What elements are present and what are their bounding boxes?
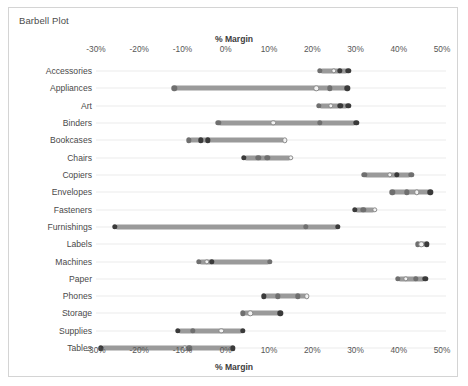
barbell-bar-phones[interactable]: [264, 294, 307, 299]
data-point-binders-3[interactable]: [354, 120, 359, 125]
axis-title-bottom: % Margin: [0, 362, 468, 372]
x-tick-label-bottom: 40%: [390, 345, 407, 355]
data-point-chairs-3[interactable]: [288, 155, 293, 160]
category-label-art: Art: [81, 101, 92, 111]
x-tick-label-top: 30%: [347, 44, 364, 54]
x-tick-label-bottom: 20%: [304, 345, 321, 355]
category-label-envelopes: Envelopes: [52, 187, 92, 197]
category-label-chairs: Chairs: [67, 153, 92, 163]
gridline-row: [96, 209, 446, 210]
barbell-bar-bookcases[interactable]: [189, 138, 285, 143]
data-point-copiers-3[interactable]: [409, 172, 414, 177]
barbell-bar-paper[interactable]: [398, 276, 425, 281]
data-point-fasteners-2[interactable]: [372, 207, 377, 212]
plot-area: % Margin -30%-20%-10%0%10%20%30%40%50% A…: [0, 0, 468, 386]
category-label-supplies: Supplies: [59, 326, 92, 336]
x-tick-label-top: 40%: [390, 44, 407, 54]
barbell-bar-tables[interactable]: [101, 346, 233, 351]
x-tick-label-top: 50%: [434, 44, 451, 54]
category-label-furnishings: Furnishings: [48, 222, 92, 232]
x-tick-label-bottom: 10%: [261, 345, 278, 355]
data-point-phones-3[interactable]: [304, 293, 309, 298]
category-label-labels: Labels: [67, 239, 92, 249]
x-tick-label-top: 10%: [261, 44, 278, 54]
category-label-phones: Phones: [63, 291, 92, 301]
category-label-fasteners: Fasteners: [54, 205, 92, 215]
data-point-bookcases-3[interactable]: [282, 138, 287, 143]
category-label-machines: Machines: [55, 257, 92, 267]
data-point-storage-2[interactable]: [278, 311, 283, 316]
data-point-labels-2[interactable]: [424, 241, 429, 246]
data-point-art-3[interactable]: [345, 103, 350, 108]
x-tick-label-top: -20%: [130, 44, 149, 54]
x-tick-label-top: 0%: [220, 44, 232, 54]
x-tick-label-top: -10%: [173, 44, 192, 54]
barbell-bar-appliances[interactable]: [174, 86, 347, 91]
data-point-envelopes-3[interactable]: [428, 190, 433, 195]
gridline-row: [96, 244, 446, 245]
gridline-row: [96, 278, 446, 279]
data-point-machines-3[interactable]: [267, 259, 272, 264]
category-label-binders: Binders: [63, 118, 92, 128]
data-point-furnishings-2[interactable]: [335, 224, 340, 229]
x-tick-label-bottom: 50%: [434, 345, 451, 355]
category-label-paper: Paper: [69, 274, 92, 284]
gridline-row: [96, 105, 446, 106]
x-tick-label-bottom: 30%: [347, 345, 364, 355]
category-label-bookcases: Bookcases: [50, 135, 92, 145]
data-point-appliances-3[interactable]: [345, 86, 350, 91]
barbell-bar-supplies[interactable]: [178, 328, 243, 333]
category-label-storage: Storage: [62, 308, 92, 318]
data-point-accessories-3[interactable]: [345, 68, 350, 73]
x-tick-label-bottom: -30%: [86, 345, 105, 355]
x-tick-label-top: 20%: [304, 44, 321, 54]
x-tick-label-bottom: 0%: [220, 345, 232, 355]
barbell-plot-worksheet: Barbell Plot % Margin -30%-20%-10%0%10%2…: [0, 0, 468, 386]
category-label-appliances: Appliances: [50, 83, 92, 93]
x-tick-label-bottom: -10%: [173, 345, 192, 355]
data-point-supplies-3[interactable]: [240, 328, 245, 333]
x-tick-label-bottom: -20%: [130, 345, 149, 355]
y-axis-category-labels: AccessoriesAppliancesArtBindersBookcases…: [18, 0, 92, 386]
barbell-bar-art[interactable]: [319, 103, 348, 108]
barbell-bar-binders[interactable]: [218, 120, 356, 125]
data-point-paper-3[interactable]: [422, 276, 427, 281]
barbell-bar-envelopes[interactable]: [392, 190, 430, 195]
category-label-accessories: Accessories: [46, 66, 92, 76]
gridline-row: [96, 71, 446, 72]
category-label-copiers: Copiers: [62, 170, 92, 180]
gridline-row: [96, 330, 446, 331]
